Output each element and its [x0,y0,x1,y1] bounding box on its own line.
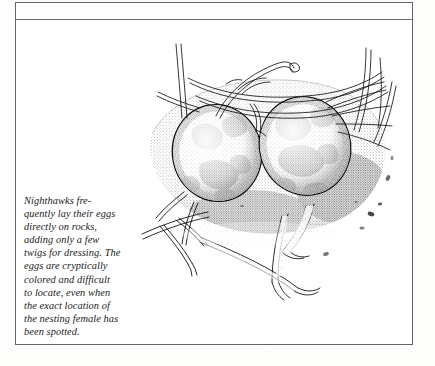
figure-caption: Nighthawks fre- quently lay their eggs d… [24,194,149,338]
figure-top-rule [15,19,413,20]
figure-page: Nighthawks fre- quently lay their eggs d… [0,0,435,366]
nighthawk-eggs-nest-illustration [130,38,405,308]
